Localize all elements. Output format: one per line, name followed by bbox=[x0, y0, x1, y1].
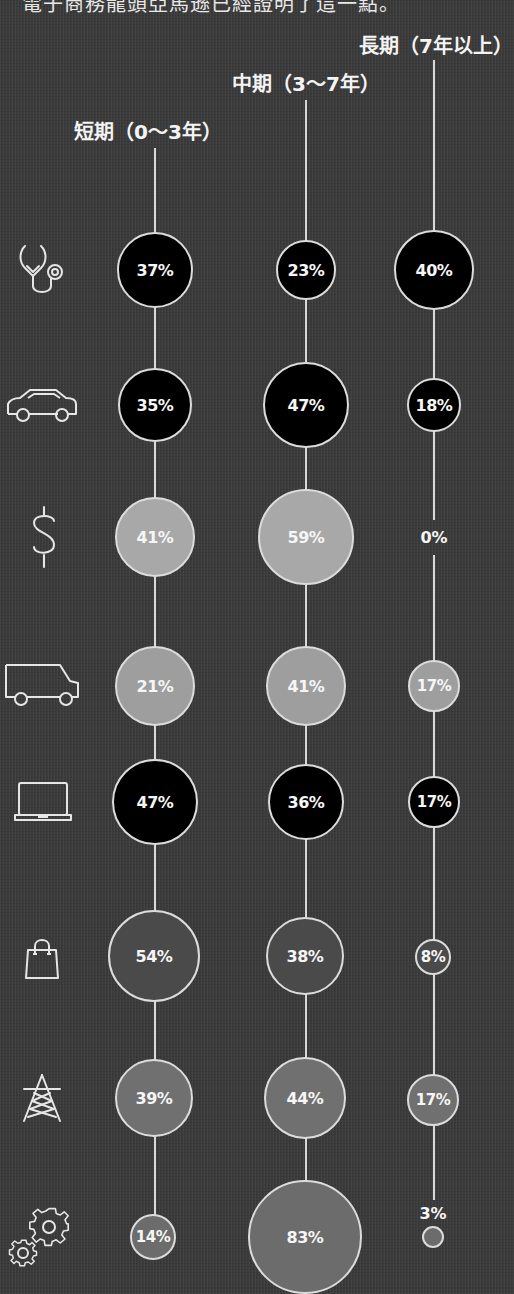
bubble-row6-short: 54% bbox=[108, 910, 200, 1002]
bubble-row3-short: 41% bbox=[115, 497, 195, 577]
bubble-row4-short: 21% bbox=[115, 646, 195, 726]
bubble-row5-short: 47% bbox=[112, 759, 198, 845]
power-tower-icon bbox=[20, 1073, 64, 1123]
bubble-row5-long: 17% bbox=[408, 776, 460, 828]
bubble-row2-mid: 47% bbox=[263, 362, 349, 448]
bubble-row4-long: 17% bbox=[408, 660, 460, 712]
bubble-row1-long: 40% bbox=[394, 230, 474, 310]
bubble-row7-mid: 44% bbox=[264, 1057, 346, 1139]
stethoscope-icon bbox=[17, 242, 67, 298]
value-row8-long: 3% bbox=[419, 1204, 446, 1223]
bubble-row8-long bbox=[422, 1226, 444, 1248]
bubble-row7-short: 39% bbox=[115, 1059, 193, 1137]
gears-icon bbox=[7, 1207, 73, 1269]
bubble-row2-long: 18% bbox=[407, 378, 461, 432]
bubble-row5-mid: 36% bbox=[268, 764, 344, 840]
bubble-row6-mid: 38% bbox=[266, 917, 344, 995]
column-header-mid: 中期（3〜7年） bbox=[232, 68, 380, 97]
bubble-row7-long: 17% bbox=[407, 1074, 459, 1126]
caption-text: 電子商務龍頭亞馬遜已經證明了這一點。 bbox=[22, 0, 400, 17]
shopping-bag-icon bbox=[24, 936, 60, 980]
van-icon bbox=[4, 663, 80, 709]
laptop-icon bbox=[14, 781, 72, 823]
bubble-row3-mid: 59% bbox=[258, 489, 354, 585]
car-icon bbox=[6, 386, 78, 424]
bubble-row1-mid: 23% bbox=[276, 240, 336, 300]
column-header-short: 短期（0〜3年） bbox=[74, 116, 222, 145]
bubble-row8-mid: 83% bbox=[248, 1180, 362, 1294]
bubble-row6-long: 8% bbox=[415, 939, 451, 975]
bubble-row8-short: 14% bbox=[130, 1214, 176, 1260]
bubble-row1-short: 37% bbox=[117, 232, 193, 308]
column-header-long: 長期（7年以上） bbox=[359, 30, 513, 59]
bubble-row4-mid: 41% bbox=[266, 646, 346, 726]
dollar-icon bbox=[30, 505, 58, 569]
value-row3-long: 0% bbox=[418, 522, 449, 553]
bubble-row2-short: 35% bbox=[118, 368, 192, 442]
